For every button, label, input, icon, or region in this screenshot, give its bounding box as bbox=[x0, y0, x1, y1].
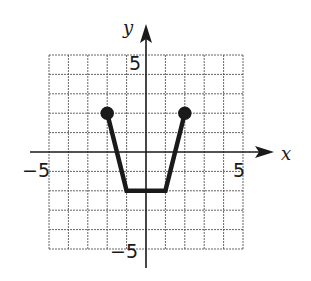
x-tick-label-pos5: 5 bbox=[233, 159, 245, 181]
coordinate-plane: x y −5 5 5 −5 bbox=[0, 0, 311, 281]
axes bbox=[30, 24, 274, 268]
y-tick-label-neg5: −5 bbox=[110, 240, 138, 262]
y-tick-label-pos5: 5 bbox=[129, 52, 141, 74]
x-axis-label: x bbox=[281, 143, 291, 164]
y-axis-label: y bbox=[122, 17, 134, 38]
x-tick-label-neg5: −5 bbox=[22, 159, 50, 181]
endpoint-dot bbox=[101, 107, 113, 119]
endpoint-dot bbox=[179, 107, 191, 119]
